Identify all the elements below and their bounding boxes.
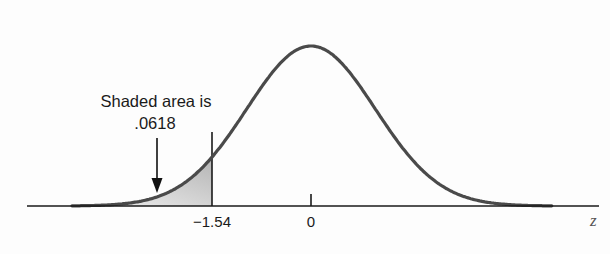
tick-label-zero: 0 — [307, 213, 315, 230]
annotation-line1: Shaded area is — [101, 92, 212, 111]
axis-label-z: z — [590, 211, 597, 231]
chart-canvas — [0, 0, 610, 254]
normal-curve-figure: Shaded area is .0618 −1.54 0 z — [0, 0, 610, 254]
tick-label-neg: −1.54 — [193, 213, 231, 230]
arrow-icon — [152, 138, 163, 193]
annotation-value: .0618 — [134, 114, 175, 133]
shaded-area — [72, 157, 212, 206]
